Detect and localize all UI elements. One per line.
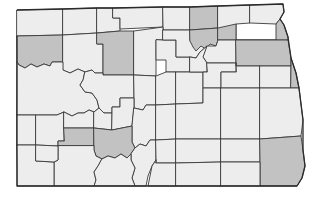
county-barnes[interactable]: Barnes bbox=[221, 88, 260, 139]
county-logan[interactable]: Logan bbox=[156, 139, 176, 163]
county-ward[interactable]: Ward bbox=[97, 31, 134, 75]
north-dakota-county-map: DivideBurkeRenvilleBottineauRoletteTowne… bbox=[0, 0, 329, 197]
county-wells[interactable]: Wells bbox=[176, 72, 203, 104]
county-sheridan[interactable]: Sheridan bbox=[156, 72, 176, 105]
map-figure: DivideBurkeRenvilleBottineauRoletteTowne… bbox=[0, 0, 329, 197]
county-kidder[interactable]: Kidder bbox=[156, 104, 176, 140]
county-slope[interactable]: Slope bbox=[36, 145, 58, 162]
county-bottineau[interactable]: Bottineau bbox=[113, 7, 163, 29]
county-burke[interactable]: Burke bbox=[63, 8, 97, 35]
county-divide[interactable]: Divide bbox=[17, 9, 63, 36]
county-cass[interactable]: Cass bbox=[260, 88, 303, 139]
county-golden-valley[interactable]: Golden Valley bbox=[17, 115, 36, 145]
county-rolette[interactable]: Rolette bbox=[163, 7, 190, 30]
county-grant[interactable]: Grant bbox=[54, 146, 102, 186]
county-grand-forks[interactable]: Grand Forks bbox=[236, 40, 291, 66]
county-ransom[interactable]: Ransom bbox=[221, 139, 260, 162]
county-lamoure[interactable]: LaMoure bbox=[176, 139, 221, 163]
county-dickey[interactable]: Dickey bbox=[176, 162, 221, 186]
county-towner[interactable]: Towner bbox=[190, 6, 218, 30]
county-steele[interactable]: Steele bbox=[260, 66, 291, 88]
county-richland[interactable]: Richland bbox=[260, 136, 305, 186]
county-sargent[interactable]: Sargent bbox=[221, 162, 260, 186]
counties-layer: DivideBurkeRenvilleBottineauRoletteTowne… bbox=[17, 4, 305, 186]
county-morton[interactable]: Morton bbox=[94, 126, 135, 159]
